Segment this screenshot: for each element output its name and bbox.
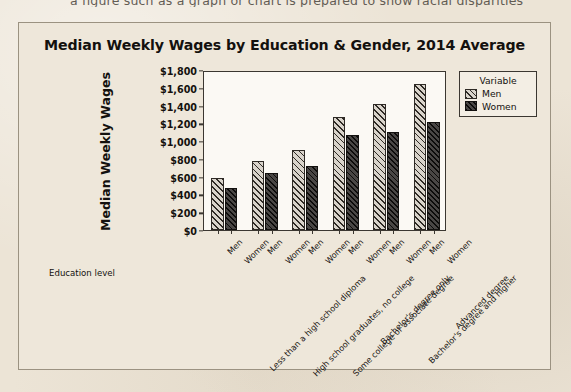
- bar-women-4: [387, 132, 400, 230]
- x-axis-tick-mark: [258, 230, 259, 234]
- x-axis-tick-mark: [231, 230, 232, 234]
- y-axis: $0$200$400$600$800$1,000$1,200$1,400$1,6…: [129, 71, 203, 231]
- legend-swatch-men-icon: [465, 89, 477, 99]
- bar-women-0: [225, 188, 238, 230]
- x-tick-label-women: Women: [445, 237, 474, 266]
- bar-men-3: [333, 117, 346, 230]
- x-tick-label-men: Men: [265, 237, 284, 256]
- y-axis-tick-label: $1,800: [160, 66, 197, 77]
- x-tick-label-women: Women: [283, 237, 312, 266]
- x-axis-tick-mark: [339, 230, 340, 234]
- y-axis-tick-label: $1,600: [160, 83, 197, 94]
- y-axis-tick-label: $600: [170, 172, 197, 183]
- legend-item-women[interactable]: Women: [465, 101, 531, 112]
- bar-women-2: [306, 166, 319, 230]
- y-axis-tick-label: $800: [170, 154, 197, 165]
- plot-area: [203, 71, 446, 231]
- chart-legend: Variable Men Women: [459, 71, 537, 117]
- legend-item-men[interactable]: Men: [465, 88, 531, 99]
- bar-men-2: [292, 150, 305, 230]
- cut-off-caption-line: a figure such as a graph or chart is pre…: [70, 0, 540, 7]
- x-axis-tick-mark: [380, 230, 381, 234]
- x-axis-category-label: Bachelor's degree only: [378, 273, 451, 346]
- y-axis-title-text: Median Weekly Wages: [99, 71, 114, 230]
- x-axis-tick-mark: [420, 230, 421, 234]
- x-tick-label-men: Men: [225, 237, 244, 256]
- legend-swatch-women-icon: [465, 101, 477, 111]
- legend-title: Variable: [465, 75, 531, 86]
- y-axis-tick-label: $400: [170, 190, 197, 201]
- y-axis-tick-label: $1,400: [160, 101, 197, 112]
- bar-men-1: [252, 161, 265, 230]
- y-axis-tick-label: $1,200: [160, 119, 197, 130]
- legend-label-men: Men: [482, 88, 501, 99]
- x-axis-tick-mark: [312, 230, 313, 234]
- x-tick-label-men: Men: [427, 237, 446, 256]
- x-axis-tick-mark: [434, 230, 435, 234]
- bar-men-0: [211, 178, 224, 230]
- y-axis-tick-label: $0: [184, 226, 197, 237]
- y-axis-title: Median Weekly Wages: [97, 75, 115, 227]
- x-axis-tick-mark: [353, 230, 354, 234]
- x-tick-label-men: Men: [346, 237, 365, 256]
- chart-title: Median Weekly Wages by Education & Gende…: [19, 37, 550, 53]
- bar-women-1: [265, 173, 278, 230]
- x-axis-tick-mark: [299, 230, 300, 234]
- x-axis-title: Education level: [49, 268, 115, 278]
- x-axis-category-label: Less than a high school diploma: [268, 273, 368, 373]
- bars-layer: [204, 72, 445, 230]
- x-tick-label-women: Women: [364, 237, 393, 266]
- bar-men-5: [414, 84, 427, 230]
- legend-label-women: Women: [482, 101, 517, 112]
- y-axis-tick-label: $200: [170, 208, 197, 219]
- bar-women-3: [346, 135, 359, 230]
- y-axis-tick-label: $1,000: [160, 137, 197, 148]
- bar-men-4: [373, 104, 386, 230]
- x-axis-tick-mark: [272, 230, 273, 234]
- bar-women-5: [427, 122, 440, 230]
- x-axis-tick-mark: [393, 230, 394, 234]
- x-axis-tick-mark: [218, 230, 219, 234]
- chart-figure-container: Median Weekly Wages by Education & Gende…: [18, 22, 551, 370]
- x-axis-category-label: Advanced degree: [453, 273, 511, 331]
